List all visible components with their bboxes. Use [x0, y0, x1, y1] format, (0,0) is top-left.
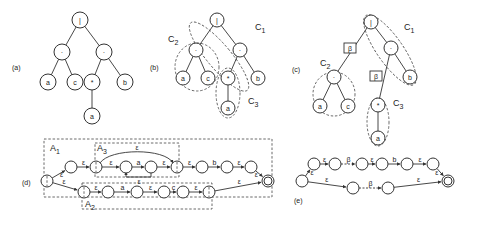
node-label: *: [377, 102, 380, 109]
edge-label: ε: [435, 169, 438, 176]
edge-label: ε: [237, 159, 240, 166]
state: [102, 186, 114, 198]
node-label: |: [216, 17, 218, 25]
node-label: ·: [61, 49, 63, 56]
state: [196, 161, 208, 173]
region-a2-box: [82, 183, 212, 209]
panel-label-c: (c): [292, 66, 300, 74]
panel-label-e: (e): [294, 197, 303, 205]
state: [120, 161, 132, 173]
edge-label: ε: [370, 156, 373, 163]
state: [158, 186, 170, 198]
state: [382, 182, 394, 194]
state: [376, 158, 388, 170]
edge-label: ε: [94, 184, 97, 191]
state: [296, 175, 308, 187]
region-label-a3: A3: [97, 143, 107, 155]
node-label: a: [181, 75, 185, 82]
node-label: |: [370, 19, 372, 27]
node-label: ·: [390, 45, 392, 52]
syntax-tree-a: |··ac*ba: [40, 12, 133, 124]
state: [329, 158, 341, 170]
panel-label-a: (a): [12, 64, 21, 72]
state: [347, 182, 359, 194]
edge-label: ε: [418, 156, 421, 163]
nfa-diagram-d: ε ε εεεaεεbεεεεaεcεε: [41, 144, 274, 199]
state: [65, 161, 77, 173]
edge-label: ε: [417, 176, 420, 183]
edge-label: ε: [162, 159, 165, 166]
panel-label-b: (b): [150, 64, 159, 72]
node-label: *: [227, 75, 230, 82]
cluster-label-c3: C3: [393, 98, 404, 110]
edge-label: ε: [63, 178, 66, 185]
node-label: a: [226, 105, 230, 112]
edge-label: ε: [325, 176, 328, 183]
edge-label: a: [137, 159, 141, 166]
edge-label: β: [368, 180, 372, 188]
cluster-label-c1: C1: [255, 22, 266, 34]
state: [356, 158, 368, 170]
node-label: a: [376, 135, 380, 142]
node-label: c: [346, 103, 350, 110]
cluster-label-c2: C2: [168, 34, 179, 46]
state: [145, 161, 157, 173]
node-label: a: [318, 103, 322, 110]
cluster-label-c3: C3: [248, 96, 259, 108]
final-state-inner: [444, 177, 452, 185]
cluster-label-c2: C2: [320, 58, 331, 70]
edge-label: a: [121, 184, 125, 191]
node-label: a: [46, 79, 50, 86]
edge-label: c: [172, 184, 176, 191]
node-label: c: [206, 75, 210, 82]
edge-label: ε: [238, 178, 241, 185]
final-state-inner: [264, 177, 272, 185]
edge-label: b: [393, 156, 397, 163]
node-label: b: [123, 79, 127, 86]
state: [245, 161, 257, 173]
edge-label: ε: [60, 171, 63, 178]
cluster-outlines-b: [175, 15, 256, 118]
node-label: ·: [103, 49, 105, 56]
node-label: |: [79, 17, 81, 25]
node-label: ·: [239, 47, 241, 54]
cluster-label-c1: C1: [404, 22, 415, 34]
edge-label: ε: [188, 159, 191, 166]
beta-label: β: [348, 45, 352, 53]
transition-edge: [305, 170, 310, 176]
edge-label: ε: [109, 159, 112, 166]
edge-label: b: [213, 159, 217, 166]
region-a1-box: [44, 139, 272, 197]
node-label: ·: [333, 74, 335, 81]
edge-label: ε: [135, 144, 138, 151]
node-label: *: [91, 79, 94, 86]
state: [131, 186, 143, 198]
nfa-diagram-e: εεβεbεεεβε: [296, 156, 454, 195]
edge-label: ε: [82, 159, 85, 166]
node-label: b: [408, 74, 412, 81]
state: [221, 161, 233, 173]
node-label: c: [73, 79, 77, 86]
node-label: a: [90, 113, 94, 120]
regex-diagram-figure: (a) (b) (c) (d) (e) |··ac*ba |··ac*ba ββ…: [0, 0, 477, 232]
edge-label: ε: [137, 178, 140, 185]
beta-label: β: [374, 73, 378, 81]
node-label: b: [256, 75, 260, 82]
state: [427, 158, 439, 170]
epsilon-loop-edge: [126, 172, 151, 177]
state: [308, 158, 320, 170]
panel-label-d: (d): [22, 179, 31, 187]
edge-label: β: [346, 156, 350, 164]
syntax-tree-c: ββ|··ac*ba: [313, 15, 417, 145]
state: [401, 158, 413, 170]
edge-label: ε: [149, 184, 152, 191]
edge-label: ε: [194, 184, 197, 191]
node-label: ·: [195, 47, 197, 54]
state: [177, 186, 189, 198]
region-label-a1: A1: [50, 143, 60, 155]
edge-label: ε: [323, 156, 326, 163]
